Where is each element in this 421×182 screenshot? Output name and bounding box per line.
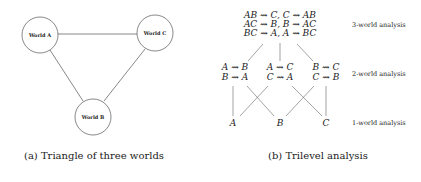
level2-block: A ⇝ B B ⇝ A A ⇝ C C ⇝ A B ⇝ C C ⇝ B	[221, 62, 340, 82]
node-label-world-a: World A	[28, 32, 51, 38]
level2-bc-line-1: B ⇝ C	[312, 62, 340, 72]
level1-label: 1-world analysis	[352, 119, 406, 127]
level3-line-3: BC ⇝ A, A ⇝ BC	[243, 28, 317, 38]
level2-bc-line-2: C ⇝ B	[313, 72, 340, 82]
level1-c: C	[323, 118, 330, 128]
caption-figure-a: (a) Triangle of three worlds	[24, 150, 164, 161]
level2-label: 2-world analysis	[352, 70, 406, 78]
level3-label: 3-world analysis	[352, 21, 406, 29]
level3-block: AB ⇝ C, C ⇝ AB AC ⇝ B, B ⇝ AC BC ⇝ A, A …	[243, 10, 317, 38]
level2-to-level1-edges	[233, 86, 326, 116]
edge-a-b	[50, 50, 83, 101]
node-label-world-b: World B	[81, 114, 105, 120]
level2-ab-line-2: B ⇝ A	[221, 72, 249, 82]
level1-a: A	[229, 118, 237, 128]
level1-block: A B C	[229, 118, 330, 128]
level2-ac-line-1: A ⇝ C	[266, 62, 294, 72]
level2-ac-line-2: C ⇝ A	[267, 72, 294, 82]
node-label-world-c: World C	[143, 30, 166, 36]
level1-b: B	[276, 118, 284, 128]
edge-c-b	[104, 49, 145, 101]
level2-ab-line-1: A ⇝ B	[221, 62, 249, 72]
caption-figure-b: (b) Trilevel analysis	[268, 150, 368, 161]
level3-to-level2-edges	[248, 43, 313, 61]
